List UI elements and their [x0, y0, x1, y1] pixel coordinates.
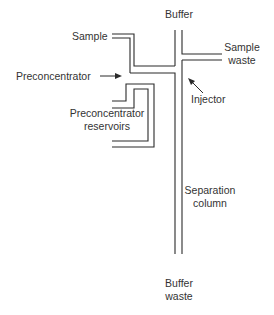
separation-column-label-line1: Separation	[184, 184, 236, 197]
preconcentrator-channel	[130, 73, 175, 254]
sample-channel	[112, 34, 175, 73]
reservoirs-label-line1: Preconcentrator	[66, 107, 148, 120]
reservoirs-label-line2: reservoirs	[66, 120, 148, 133]
preconcentrator-label: Preconcentrator	[16, 70, 91, 83]
separation-column-label-line2: column	[184, 197, 236, 210]
sample-label: Sample	[72, 30, 108, 43]
preconcentrator-arrow-icon	[100, 73, 122, 79]
buffer-label: Buffer	[163, 8, 195, 21]
buffer-waste-label-line2: waste	[161, 290, 197, 303]
injector-label: Injector	[191, 93, 225, 106]
injector-arrow-icon	[188, 78, 203, 93]
sample-waste-channel	[182, 60, 222, 254]
sample-waste-label-line2: waste	[222, 54, 262, 67]
buffer-waste-label-line1: Buffer	[161, 277, 197, 290]
sample-waste-label-line1: Sample	[222, 41, 262, 54]
